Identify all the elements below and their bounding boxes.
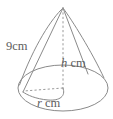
- cone-figure: 9cm h cm r cm: [0, 0, 113, 119]
- radius-dashed-line: [24, 88, 63, 91]
- radius-unit: cm: [45, 96, 60, 110]
- slant-height-label: 9cm: [6, 40, 28, 53]
- height-unit: cm: [70, 56, 85, 70]
- radius-label: r cm: [37, 97, 60, 110]
- slant-height-line: [23, 8, 63, 92]
- height-label: h cm: [61, 57, 86, 70]
- height-variable: h: [61, 56, 67, 70]
- radius-variable: r: [37, 96, 42, 110]
